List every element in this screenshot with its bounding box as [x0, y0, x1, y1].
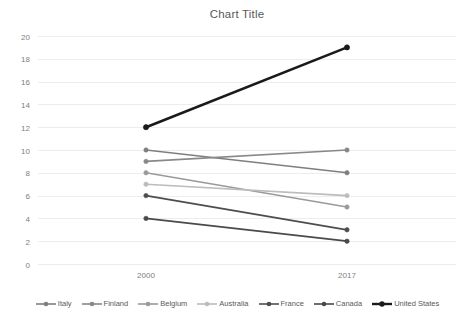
legend-swatch-icon: [371, 299, 393, 309]
data-series: [143, 45, 349, 130]
y-axis-tick-label: 10: [21, 147, 30, 156]
y-axis-tick-label: 0: [26, 261, 31, 270]
legend-item-label: Belgium: [160, 300, 187, 308]
y-axis-tick-label: 12: [21, 124, 30, 133]
y-gridlines: 02468101214161820: [21, 33, 456, 270]
legend-item[interactable]: France: [258, 299, 304, 309]
data-point-marker: [144, 193, 148, 197]
legend-swatch-icon: [258, 299, 280, 309]
plot-area: 0246810121416182020002017: [0, 0, 474, 317]
legend-item-label: Australia: [219, 300, 248, 308]
data-point-marker: [345, 239, 349, 243]
data-series-group: [143, 45, 349, 244]
y-axis-tick-label: 20: [21, 33, 30, 42]
data-point-marker: [345, 193, 349, 197]
legend-item[interactable]: Belgium: [137, 299, 187, 309]
data-point-marker: [345, 148, 349, 152]
legend-swatch-icon: [35, 299, 57, 309]
legend-swatch-icon: [196, 299, 218, 309]
data-series: [144, 216, 349, 243]
data-series: [144, 193, 349, 232]
chart-legend: ItalyFinlandBelgiumAustraliaFranceCanada…: [0, 299, 474, 309]
y-axis-tick-label: 2: [26, 238, 31, 247]
data-point-marker: [144, 159, 148, 163]
x-axis-tick-label: 2017: [338, 271, 356, 280]
series-line: [146, 196, 347, 230]
data-point-marker: [144, 148, 148, 152]
legend-item[interactable]: Australia: [196, 299, 248, 309]
data-point-marker: [144, 182, 148, 186]
legend-item-label: Italy: [58, 300, 72, 308]
y-axis-tick-label: 16: [21, 78, 30, 87]
series-line: [146, 150, 347, 173]
legend-item-label: Canada: [336, 300, 362, 308]
x-axis-labels: 20002017: [137, 271, 356, 280]
legend-item[interactable]: United States: [371, 299, 439, 309]
line-chart: Chart Title 0246810121416182020002017 It…: [0, 0, 474, 317]
series-line: [146, 184, 347, 195]
y-axis-tick-label: 18: [21, 55, 30, 64]
data-point-marker: [144, 171, 148, 175]
legend-swatch-icon: [137, 299, 159, 309]
y-axis-tick-label: 8: [26, 169, 31, 178]
legend-item-label: France: [281, 300, 304, 308]
data-point-marker: [345, 228, 349, 232]
data-point-marker: [344, 45, 349, 50]
legend-item[interactable]: Canada: [313, 299, 362, 309]
x-axis-tick-label: 2000: [137, 271, 155, 280]
legend-item[interactable]: Finland: [81, 299, 129, 309]
legend-swatch-icon: [313, 299, 335, 309]
series-line: [146, 150, 347, 161]
data-series: [144, 182, 349, 198]
legend-item-label: United States: [394, 300, 439, 308]
legend-item-label: Finland: [104, 300, 129, 308]
legend-item[interactable]: Italy: [35, 299, 72, 309]
data-point-marker: [345, 171, 349, 175]
data-point-marker: [144, 216, 148, 220]
y-axis-tick-label: 4: [26, 215, 31, 224]
y-axis-tick-label: 14: [21, 101, 30, 110]
series-line: [146, 218, 347, 241]
y-axis-tick-label: 6: [26, 192, 31, 201]
legend-swatch-icon: [81, 299, 103, 309]
data-point-marker: [345, 205, 349, 209]
data-point-marker: [143, 125, 148, 130]
